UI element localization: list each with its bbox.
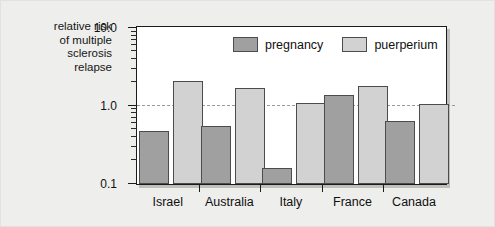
bar-italy-pregnancy[interactable] <box>262 168 292 184</box>
bar-australia-pregnancy[interactable] <box>201 126 231 184</box>
x-axis-label-france: France <box>333 195 372 209</box>
legend-item-puerperium[interactable]: puerperium <box>342 37 437 52</box>
x-axis-label-italy: Italy <box>279 195 302 209</box>
plot-inner: 10.01.00.1 IsraelAustraliaItalyFranceCan… <box>137 27 446 184</box>
y-tick-label-10.0: 10.0 <box>94 21 117 35</box>
x-tick <box>199 184 200 192</box>
legend-item-pregnancy[interactable]: pregnancy <box>233 37 323 52</box>
bar-group-israel <box>137 27 199 184</box>
legend-swatch-pregnancy <box>233 37 258 52</box>
legend-label-puerperium: puerperium <box>374 38 437 52</box>
figure-chart-relative-risk-ms-relapse: relative risk of multiple sclerosis rela… <box>0 0 495 227</box>
y-tick-10.0: 10.0 <box>128 27 137 28</box>
legend-label-pregnancy: pregnancy <box>265 38 323 52</box>
bar-canada-puerperium[interactable] <box>419 104 449 184</box>
y-tick-label-1.0: 1.0 <box>100 99 117 113</box>
x-axis-label-australia: Australia <box>205 195 254 209</box>
y-tick-1.0: 1.0 <box>128 105 137 106</box>
y-tick-0.1: 0.1 <box>128 183 137 184</box>
plot-area: 10.01.00.1 IsraelAustraliaItalyFranceCan… <box>136 26 447 185</box>
y-axis-title-line-4: relapse <box>8 61 112 75</box>
legend: pregnancy puerperium <box>233 37 438 52</box>
bar-france-pregnancy[interactable] <box>324 95 354 184</box>
bar-israel-pregnancy[interactable] <box>139 131 169 184</box>
x-axis-label-israel: Israel <box>152 195 183 209</box>
bar-canada-pregnancy[interactable] <box>385 121 415 184</box>
x-tick <box>260 184 261 192</box>
x-axis-label-canada: Canada <box>392 195 436 209</box>
y-axis-title-line-3: sclerosis <box>8 47 112 61</box>
y-tick-label-0.1: 0.1 <box>100 177 117 191</box>
legend-swatch-puerperium <box>342 37 367 52</box>
y-axis-title-line-2: of multiple <box>8 34 112 48</box>
x-tick <box>322 184 323 192</box>
x-tick <box>383 184 384 192</box>
